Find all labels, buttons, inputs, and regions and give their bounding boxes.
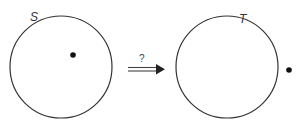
point-outside-t xyxy=(286,67,292,73)
label-t: T xyxy=(239,12,248,26)
set-s: S xyxy=(10,10,112,118)
transformation-diagram: S ? T xyxy=(0,0,299,126)
circle-t xyxy=(176,16,278,118)
circle-s xyxy=(10,16,112,118)
arrow-question-label: ? xyxy=(139,53,145,64)
transformation-arrow: ? xyxy=(128,53,165,75)
set-t: T xyxy=(176,12,292,118)
arrowhead-icon xyxy=(156,64,165,75)
point-inside-s xyxy=(70,52,76,58)
label-s: S xyxy=(30,10,38,24)
